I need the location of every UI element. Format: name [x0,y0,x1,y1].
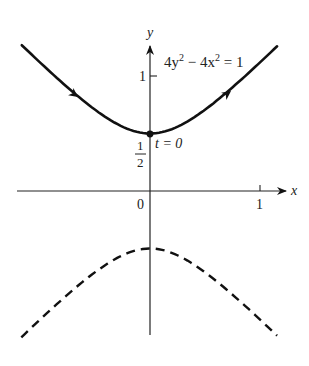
equation-label: 4y2 − 4x2 = 1 [164,52,243,70]
x-axis-label: x [290,183,298,198]
lower-branch-curve [21,249,277,338]
origin-label: 0 [137,197,144,212]
hyperbola-diagram: y x 0 1 1 4y2 − 4x2 = 1 1 2 t = 0 [0,0,309,366]
x-tick-label: 1 [256,197,263,212]
y-tick-label: 1 [139,69,146,84]
fraction-denominator: 2 [137,155,144,170]
fraction-numerator: 1 [137,138,144,153]
equation-x-term: − 4x [184,54,215,70]
equation-rhs: = 1 [220,54,243,70]
t-zero-label: t = 0 [155,136,182,151]
vertex-point [147,131,154,138]
y-axis-label: y [145,25,154,40]
equation-y-term: 4y [164,54,180,70]
